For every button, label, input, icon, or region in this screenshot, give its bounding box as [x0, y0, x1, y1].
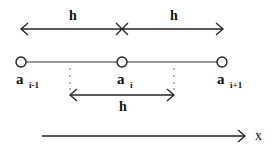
interval-h-label: h [119, 99, 127, 114]
subscript-i-minus-1: i-1 [29, 80, 39, 90]
subscript-i: i [130, 80, 133, 90]
node-a-i [117, 57, 127, 67]
label-a-i-minus-1: a [16, 71, 24, 87]
subscript-i-plus-1: i+1 [230, 80, 243, 90]
x-axis-label: x [255, 128, 262, 143]
left-dotted-guide [69, 68, 71, 90]
node-a-i-minus-1 [16, 57, 26, 67]
top-left-h-label: h [69, 8, 77, 23]
right-dotted-guide [173, 68, 175, 90]
label-a-i-plus-1: a [217, 71, 225, 87]
x-axis: x [42, 128, 262, 143]
top-right-h-label: h [170, 8, 178, 23]
node-labels: a i-1 a i a i+1 [16, 71, 243, 90]
interval-h-arrow: h [70, 89, 174, 114]
top-h-arrows: h h [21, 8, 223, 35]
label-a-i: a [117, 71, 125, 87]
grid-spacing-diagram: h h a i-1 a i a i+1 [0, 0, 277, 151]
node-a-i-plus-1 [217, 57, 227, 67]
node-line [16, 57, 227, 67]
